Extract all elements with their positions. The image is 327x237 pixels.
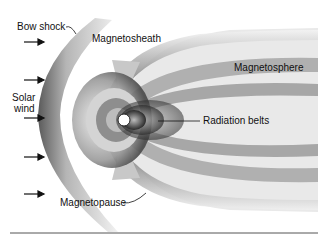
bow-shock-label: Bow shock	[17, 21, 66, 32]
magnetosheath-label: Magnetosheath	[92, 33, 161, 44]
magnetosphere-diagram: Bow shock Magnetosheath Magnetosphere So…	[0, 0, 327, 237]
magnetosphere-label: Magnetosphere	[234, 62, 304, 73]
solar-wind-label-line2: wind	[13, 103, 35, 114]
bow-shock-leader	[66, 27, 76, 34]
radiation-belts-label: Radiation belts	[203, 115, 269, 126]
earth	[118, 114, 130, 126]
magnetopause-leader	[123, 193, 146, 203]
magnetopause-label: Magnetopause	[60, 197, 127, 208]
solar-wind-arrows	[24, 39, 44, 197]
solar-wind-label-line1: Solar	[12, 92, 36, 103]
